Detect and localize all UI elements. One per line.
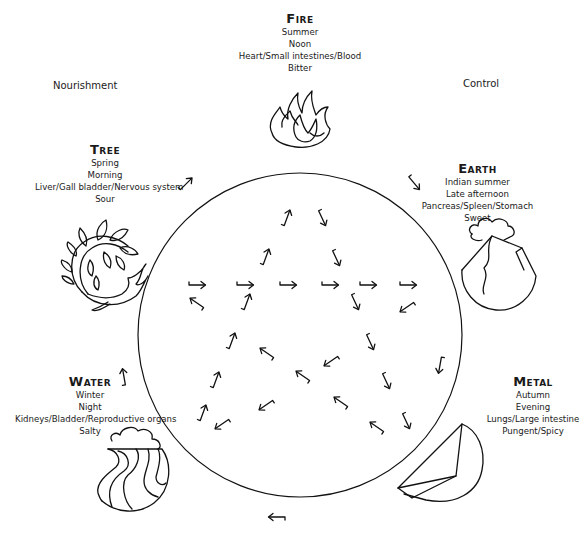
inner-arrow [241, 293, 253, 311]
inner-arrow [294, 368, 312, 383]
mountain-cloud-icon [462, 219, 536, 311]
inner-arrow [197, 404, 209, 422]
outer-arrow-metal-to-water [269, 514, 286, 521]
inner-arrow [258, 345, 276, 360]
inner-arrow [322, 354, 340, 369]
inner-arrows [188, 209, 416, 435]
inner-arrow [368, 419, 386, 434]
outer-arrow-earth-to-metal [435, 357, 445, 374]
inner-arrow [315, 209, 328, 227]
cycle-circle [138, 173, 462, 497]
inner-arrow [226, 332, 238, 350]
inner-arrow [363, 333, 376, 351]
outer-arrow-water-to-tree [119, 368, 129, 385]
waves-icon [98, 428, 169, 512]
inner-arrow [399, 412, 412, 430]
inner-arrow [237, 282, 254, 289]
inner-arrow [280, 282, 297, 289]
inner-arrow [189, 282, 206, 289]
outer-arrow-fire-to-earth [406, 175, 422, 192]
inner-arrow [400, 282, 417, 289]
inner-arrow [379, 372, 392, 390]
five-elements-diagram [0, 0, 587, 550]
inner-arrow [329, 249, 342, 267]
inner-arrow [332, 394, 350, 409]
inner-arrow [260, 248, 272, 266]
inner-arrow [360, 282, 377, 289]
inner-arrow [188, 295, 206, 310]
inner-arrow [398, 300, 416, 315]
inner-arrow [348, 293, 361, 311]
leafy-branch-icon [61, 220, 148, 311]
inner-arrow [281, 209, 293, 227]
flame-icon [270, 91, 330, 147]
inner-arrow [322, 282, 339, 289]
metal-wedge-icon [398, 424, 483, 501]
outer-arrow-tree-to-fire [178, 176, 195, 193]
inner-arrow [213, 417, 231, 432]
inner-arrow [257, 398, 275, 413]
inner-arrow [210, 371, 222, 389]
